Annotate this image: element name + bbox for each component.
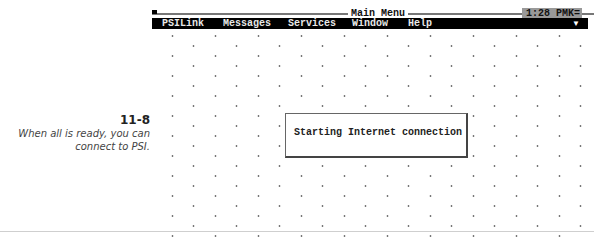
page-divider — [0, 231, 594, 232]
menu-psilink[interactable]: PSILink — [162, 18, 204, 29]
figure-caption-text: When all is ready, you can connect to PS… — [0, 127, 150, 153]
menu-messages[interactable]: Messages — [223, 18, 271, 29]
menu-bar: PSILink Messages Services Window Help ▼ — [152, 18, 588, 29]
figure-caption: 11-8 When all is ready, you can connect … — [0, 113, 150, 153]
dos-screen: Main Menu 1:28 PMK= PSILink Messages Ser… — [152, 0, 594, 241]
window-control-icon[interactable] — [152, 10, 157, 14]
menu-help[interactable]: Help — [408, 18, 432, 29]
status-message: Starting Internet connection — [294, 127, 462, 138]
menu-services[interactable]: Services — [288, 18, 336, 29]
figure-number: 11-8 — [0, 113, 150, 127]
status-dialog: Starting Internet connection — [285, 113, 468, 158]
dropdown-arrow-icon[interactable]: ▼ — [572, 18, 580, 29]
title-bar: Main Menu 1:28 PMK= — [152, 9, 594, 18]
menu-window[interactable]: Window — [352, 18, 388, 29]
